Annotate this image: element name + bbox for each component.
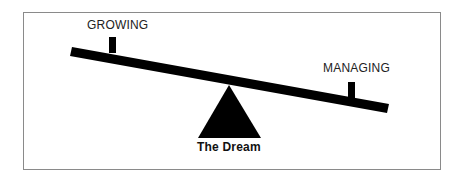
managing-label: MANAGING [323, 61, 390, 75]
right-peg [348, 82, 355, 101]
growing-label: GROWING [87, 18, 148, 32]
dream-label: The Dream [197, 140, 261, 154]
left-peg [109, 37, 116, 53]
fulcrum-triangle [198, 85, 261, 138]
